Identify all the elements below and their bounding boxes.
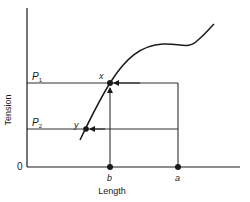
- point-y-label: y: [73, 120, 79, 130]
- point-a-label: a: [175, 173, 180, 183]
- p1-label: P1: [32, 71, 43, 83]
- y-axis-label: Tension: [3, 94, 13, 125]
- point-a: [175, 164, 181, 170]
- length-tension-diagram: P1 P2 x y b a 0 Length Tension: [0, 0, 250, 202]
- point-x: [107, 80, 113, 86]
- length-tension-curve: [80, 24, 214, 140]
- p2-label: P2: [32, 117, 43, 129]
- point-x-label: x: [98, 71, 104, 81]
- x-axis-label: Length: [98, 186, 126, 196]
- point-y: [83, 126, 89, 132]
- origin-label: 0: [17, 161, 23, 172]
- point-b: [107, 164, 113, 170]
- point-b-label: b: [107, 173, 112, 183]
